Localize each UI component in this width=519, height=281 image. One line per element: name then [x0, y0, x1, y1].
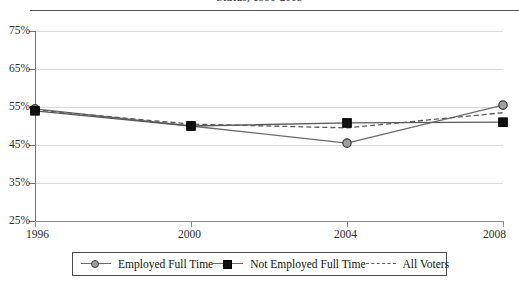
square-line-key-icon	[213, 258, 243, 270]
dashed-line-key-icon	[366, 258, 396, 270]
data-point-marker	[499, 118, 508, 127]
legend-item[interactable]: Employed Full Time	[81, 258, 213, 270]
data-point-marker	[187, 122, 196, 131]
legend-item[interactable]: All Voters	[366, 258, 450, 270]
legend-item-label: Not Employed Full Time	[250, 258, 365, 270]
legend-item-label: Employed Full Time	[118, 258, 213, 270]
legend-dashed-line	[366, 263, 396, 264]
series-layer	[0, 0, 519, 281]
data-point-marker	[499, 101, 507, 109]
circle-marker-icon	[91, 260, 99, 268]
legend-item-label: All Voters	[403, 258, 450, 270]
square-marker-icon	[223, 260, 232, 269]
circle-line-key-icon	[81, 258, 111, 270]
legend-item[interactable]: Not Employed Full Time	[213, 258, 365, 270]
series-line	[35, 110, 503, 128]
series-line	[35, 111, 503, 126]
chart-figure: Status, 1996-2008 25%35%45%55%65%75% 199…	[0, 0, 519, 281]
data-point-marker	[31, 107, 40, 116]
data-point-marker	[343, 119, 352, 128]
data-point-marker	[343, 139, 351, 147]
chart-legend: Employed Full TimeNot Employed Full Time…	[72, 252, 447, 276]
